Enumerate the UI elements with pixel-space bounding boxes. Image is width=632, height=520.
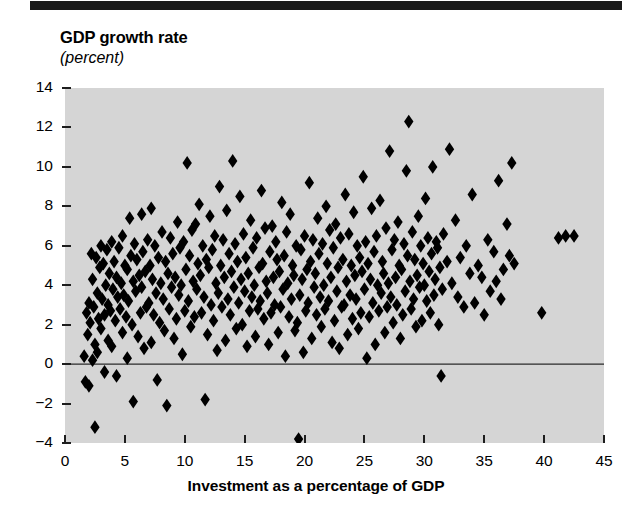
gdp-investment-scatter-figure: GDP growth rate (percent) −4−20246810121… (0, 0, 632, 520)
x-tick-mark (483, 435, 485, 443)
chart-title: GDP growth rate (60, 28, 188, 47)
y-tick-mark (62, 403, 71, 405)
y-tick-label: 14 (36, 79, 53, 95)
y-tick-mark (62, 126, 71, 128)
x-tick-label: 20 (296, 453, 313, 469)
x-tick-label: 35 (476, 453, 493, 469)
x-tick-label: 0 (61, 453, 70, 469)
y-tick-label: 0 (44, 355, 53, 371)
x-tick-label: 30 (416, 453, 433, 469)
x-tick-mark (603, 435, 605, 443)
y-tick-mark (62, 363, 71, 365)
data-point-markers (79, 115, 578, 443)
chart-subtitle-units: (percent) (60, 48, 124, 67)
y-tick-mark (62, 245, 71, 247)
x-tick-mark (64, 435, 66, 443)
y-tick-mark (62, 205, 71, 207)
y-tick-mark (62, 284, 71, 286)
x-tick-mark (543, 435, 545, 443)
y-tick-label: 12 (36, 118, 53, 134)
y-tick-label: −2 (35, 395, 53, 411)
x-tick-label: 25 (356, 453, 373, 469)
y-tick-label: 8 (44, 197, 53, 213)
y-tick-mark (62, 166, 71, 168)
x-tick-label: 45 (595, 453, 612, 469)
x-tick-mark (244, 435, 246, 443)
x-tick-mark (124, 435, 126, 443)
plot-area (65, 88, 604, 443)
x-tick-mark (184, 435, 186, 443)
top-rule-divider (30, 1, 622, 10)
y-tick-label: −4 (35, 434, 53, 450)
scatter-plot-canvas (65, 88, 604, 443)
y-tick-label: 2 (44, 316, 53, 332)
x-tick-label: 40 (535, 453, 552, 469)
y-tick-mark (62, 324, 71, 326)
x-tick-mark (363, 435, 365, 443)
x-tick-label: 15 (236, 453, 253, 469)
x-tick-label: 5 (121, 453, 130, 469)
x-tick-mark (423, 435, 425, 443)
x-tick-mark (304, 435, 306, 443)
y-tick-mark (62, 87, 71, 89)
x-tick-label: 10 (176, 453, 193, 469)
x-axis-title: Investment as a percentage of GDP (0, 477, 632, 495)
y-tick-label: 4 (44, 276, 53, 292)
y-tick-label: 10 (36, 158, 53, 174)
y-tick-label: 6 (44, 237, 53, 253)
